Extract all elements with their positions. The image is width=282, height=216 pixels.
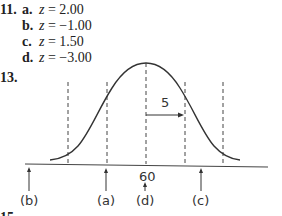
problem-number: 15. xyxy=(0,210,22,216)
mean-label: 60 xyxy=(139,169,156,184)
marker-b: (b) xyxy=(20,193,38,208)
x-axis xyxy=(25,164,268,167)
sd-lines xyxy=(68,63,223,164)
answer-15: 15. xyxy=(0,210,22,216)
marker-d: (d) xyxy=(136,193,154,208)
sd-label: 5 xyxy=(161,95,169,110)
marker-arrows xyxy=(29,169,201,191)
marker-a: (a) xyxy=(97,193,115,208)
normal-curve-figure: 5 60 (b) (a) (d) (c) xyxy=(0,0,282,216)
marker-c: (c) xyxy=(192,193,209,208)
bell-curve xyxy=(50,63,240,160)
